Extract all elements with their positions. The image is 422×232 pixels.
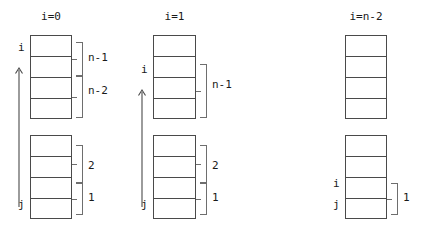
array-cell (154, 199, 195, 218)
column-title-2: i=1 (153, 10, 196, 23)
pointer-label-i-1: i (18, 42, 25, 53)
array-cell (154, 57, 195, 78)
brace-label-2-a: n-1 (212, 79, 232, 90)
brace-2-a (200, 64, 207, 118)
array-cell (31, 36, 71, 57)
array-cell (31, 78, 71, 99)
array-cell (154, 99, 195, 118)
brace-1-a (76, 42, 83, 76)
brace-1-b (76, 76, 83, 118)
array-cell (346, 57, 386, 78)
brace-tick (196, 91, 201, 92)
brace-2-c (200, 183, 207, 215)
brace-tick (196, 164, 201, 165)
arrow-up-icon (13, 66, 25, 208)
array-cell (346, 199, 386, 218)
array-block-top-2 (153, 35, 196, 119)
brace-tick (196, 199, 201, 200)
traversal-arrow-1 (13, 66, 25, 212)
traversal-arrow-2 (136, 88, 148, 212)
array-cell (154, 136, 195, 157)
array-block-bottom-2 (153, 135, 196, 219)
brace-1-c (76, 145, 83, 183)
array-cell (346, 157, 386, 178)
brace-label-1-b: n-2 (88, 85, 108, 96)
brace-label-2-c: 1 (212, 192, 219, 203)
array-cell (346, 78, 386, 99)
brace-tick (387, 199, 392, 200)
array-cell (346, 36, 386, 57)
pointer-label-j-3: j (333, 199, 340, 210)
array-block-bottom-3 (345, 135, 387, 219)
array-cell (154, 36, 195, 57)
brace-1-d (76, 183, 83, 215)
array-cell (31, 136, 71, 157)
array-cell (346, 136, 386, 157)
array-cell (346, 99, 386, 118)
array-cell (346, 178, 386, 199)
brace-label-3-a: 1 (403, 192, 410, 203)
brace-label-1-a: n-1 (88, 52, 108, 63)
array-cell (31, 99, 71, 118)
array-block-bottom-1 (30, 135, 72, 219)
brace-label-2-b: 2 (212, 160, 219, 171)
arrow-up-icon (136, 88, 148, 208)
brace-tick (72, 59, 77, 60)
brace-label-1-d: 1 (88, 192, 95, 203)
brace-tick (72, 164, 77, 165)
array-block-top-3 (345, 35, 387, 119)
array-cell (154, 78, 195, 99)
array-cell (31, 57, 71, 78)
array-cell (31, 199, 71, 218)
array-cell (154, 178, 195, 199)
diagram-canvas: i=0 i j n-1 n-2 2 1 i=1 (0, 0, 422, 232)
brace-tick (72, 97, 77, 98)
pointer-label-i-3: i (333, 178, 340, 189)
brace-label-1-c: 2 (88, 160, 95, 171)
pointer-label-i-2: i (141, 64, 148, 75)
array-block-top-1 (30, 35, 72, 119)
brace-2-b (200, 145, 207, 183)
column-title-1: i=0 (30, 10, 72, 23)
array-cell (154, 157, 195, 178)
array-cell (31, 157, 71, 178)
column-title-3: i=n-2 (334, 10, 398, 23)
brace-3-a (391, 183, 398, 215)
brace-tick (72, 199, 77, 200)
array-cell (31, 178, 71, 199)
